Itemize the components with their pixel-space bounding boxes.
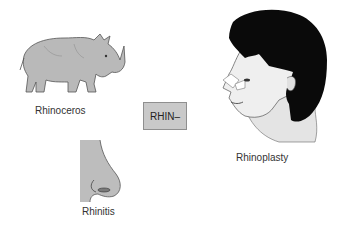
nose-illustration <box>78 140 133 202</box>
rhinoplasty-label: Rhinoplasty <box>236 152 288 163</box>
rhinoceros-illustration <box>14 26 126 100</box>
root-word-box: RHIN– <box>143 102 187 130</box>
rhinoceros-label: Rhinoceros <box>35 105 86 116</box>
head-profile-bandaged-nose-illustration <box>215 8 329 143</box>
rhinitis-label: Rhinitis <box>82 206 115 217</box>
